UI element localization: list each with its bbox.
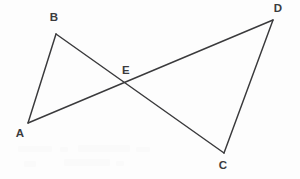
segment-AB xyxy=(28,34,56,123)
vertex-label-e: E xyxy=(122,65,130,77)
vertex-label-c: C xyxy=(219,160,228,172)
segment-AD xyxy=(28,20,273,123)
geometry-line-drawing xyxy=(0,0,300,179)
geometry-figure-canvas: A B C D E xyxy=(0,0,300,179)
vertex-label-d: D xyxy=(274,3,283,15)
vertex-label-b: B xyxy=(50,12,59,24)
vertex-label-a: A xyxy=(16,128,25,140)
segment-DC xyxy=(224,20,273,153)
